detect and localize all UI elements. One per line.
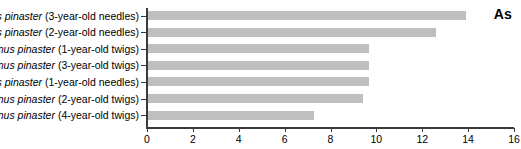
x-axis-tick-label: 8 bbox=[316, 133, 346, 145]
category-label: Pinus pinaster (2-year-old needles) bbox=[0, 24, 139, 40]
y-axis-line bbox=[146, 8, 148, 129]
bar bbox=[147, 77, 369, 86]
x-axis-tick-label: 4 bbox=[224, 133, 254, 145]
x-axis-tick-label: 16 bbox=[499, 133, 521, 145]
x-axis-tick-label: 2 bbox=[178, 133, 208, 145]
species-name: Pinus pinaster bbox=[0, 76, 42, 88]
category-tick-mark bbox=[141, 115, 146, 116]
x-axis-tick-mark bbox=[376, 128, 377, 132]
species-name: Pinus pinaster bbox=[0, 10, 42, 22]
tissue-detail: (1-year-old needles) bbox=[42, 76, 139, 88]
bar bbox=[147, 61, 369, 70]
species-name: Pinus pinaster bbox=[0, 109, 55, 121]
bar bbox=[147, 111, 314, 120]
x-axis-tick-mark bbox=[239, 128, 240, 132]
category-axis-labels: Pinus pinaster (3-year-old needles)Pinus… bbox=[0, 0, 143, 128]
x-axis-tick-label: 12 bbox=[407, 133, 437, 145]
category-label: Pinus pinaster (1-year-old needles) bbox=[0, 74, 139, 90]
x-axis-tick-mark bbox=[514, 128, 515, 132]
category-tick-mark bbox=[141, 32, 146, 33]
category-label: Pinus pinaster (3-year-old twigs) bbox=[0, 57, 139, 73]
x-axis-tick-mark bbox=[468, 128, 469, 132]
tissue-detail: (4-year-old twigs) bbox=[55, 109, 139, 121]
tissue-detail: (1-year-old twigs) bbox=[55, 43, 139, 55]
category-label: Pinus pinaster (2-year-old twigs) bbox=[0, 91, 139, 107]
bar-chart: As Pinus pinaster (3-year-old needles)Pi… bbox=[0, 0, 521, 149]
x-axis-tick-mark bbox=[285, 128, 286, 132]
x-axis-tick-label: 6 bbox=[270, 133, 300, 145]
x-axis-tick-mark bbox=[331, 128, 332, 132]
category-tick-mark bbox=[141, 65, 146, 66]
x-axis-tick-label: 14 bbox=[453, 133, 483, 145]
category-label: Pinus pinaster (4-year-old twigs) bbox=[0, 107, 139, 123]
species-name: Pinus pinaster bbox=[0, 26, 42, 38]
category-label: Pinus pinaster (3-year-old needles) bbox=[0, 8, 139, 24]
category-label: Pinus pinaster (1-year-old twigs) bbox=[0, 41, 139, 57]
x-axis-tick-mark bbox=[147, 128, 148, 132]
tissue-detail: (2-year-old needles) bbox=[42, 26, 139, 38]
plot-area bbox=[147, 0, 514, 128]
bar bbox=[147, 44, 369, 53]
tissue-detail: (3-year-old needles) bbox=[42, 10, 139, 22]
x-axis-tick-mark bbox=[193, 128, 194, 132]
bar bbox=[147, 94, 363, 103]
x-axis-tick-mark bbox=[422, 128, 423, 132]
bar bbox=[147, 11, 466, 20]
species-name: Pinus pinaster bbox=[0, 59, 55, 71]
category-tick-mark bbox=[141, 49, 146, 50]
tissue-detail: (2-year-old twigs) bbox=[55, 93, 139, 105]
x-axis-tick-label: 0 bbox=[132, 133, 162, 145]
species-name: Pinus pinaster bbox=[0, 93, 55, 105]
x-axis-tick-label: 10 bbox=[361, 133, 391, 145]
tissue-detail: (3-year-old twigs) bbox=[55, 59, 139, 71]
category-tick-mark bbox=[141, 16, 146, 17]
species-name: Pinus pinaster bbox=[0, 43, 55, 55]
category-tick-mark bbox=[141, 99, 146, 100]
category-tick-mark bbox=[141, 82, 146, 83]
bar bbox=[147, 28, 436, 37]
